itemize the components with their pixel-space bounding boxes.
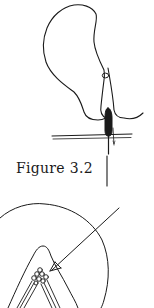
figure-caption: Figure 3.2 <box>16 160 93 176</box>
bead-icon <box>102 73 108 78</box>
detail-circle <box>0 204 108 308</box>
thread-loop-drawing <box>43 5 143 186</box>
circle-detail-drawing <box>0 204 119 308</box>
bead-cluster <box>32 268 49 285</box>
arrow <box>52 208 119 270</box>
figure-illustration <box>0 0 154 308</box>
needle <box>105 108 112 136</box>
thread-loop <box>43 5 106 120</box>
thread-tail <box>108 68 143 119</box>
fabric-line <box>52 134 132 136</box>
